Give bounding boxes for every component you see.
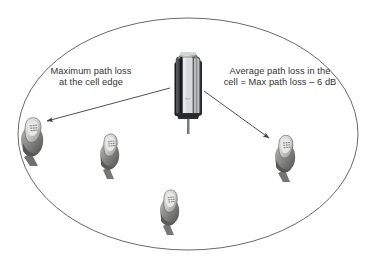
arrow-avg-path-loss <box>204 91 269 138</box>
annotation-avg-path-loss-line1: Average path loss in the <box>212 66 348 77</box>
cellular-cell-diagram: Maximum path loss at the cell edge Avera… <box>0 0 372 266</box>
handset-right <box>271 131 305 183</box>
handset-cell-edge-left <box>18 113 54 167</box>
handset-bottom <box>156 186 188 236</box>
annotation-avg-path-loss: Average path loss in the cell = Max path… <box>212 66 348 89</box>
annotation-max-path-loss-line1: Maximum path loss <box>46 66 136 77</box>
arrow-max-path-loss <box>47 88 170 121</box>
base-station-antenna <box>168 48 210 134</box>
annotation-max-path-loss: Maximum path loss at the cell edge <box>46 66 136 89</box>
handset-inner-left <box>96 130 128 180</box>
annotation-max-path-loss-line2: at the cell edge <box>46 77 136 88</box>
annotation-avg-path-loss-line2: cell = Max path loss – 6 dB <box>212 77 348 88</box>
